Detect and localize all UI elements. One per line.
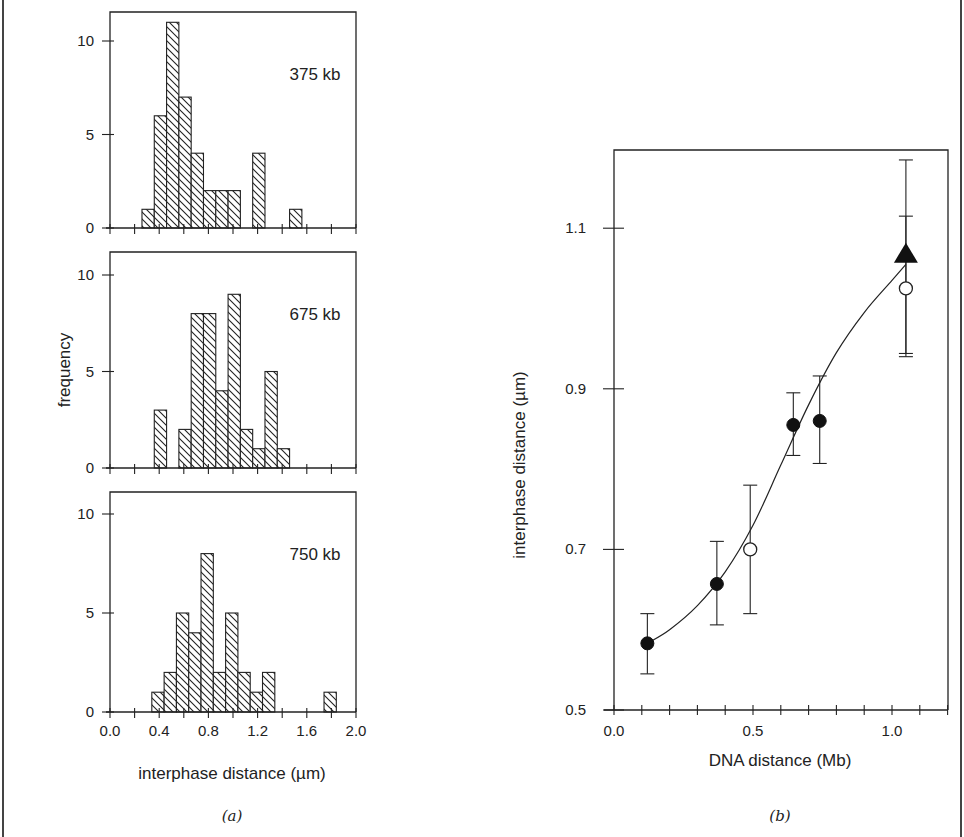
scatter-x-axis-label: DNA distance (Mb) [709,751,852,770]
histogram-bar [152,692,164,712]
histogram-bar [216,191,228,228]
histogram-bar [265,372,277,469]
histogram-bar [263,672,275,712]
histogram-bar [324,692,336,712]
histogram-bar [201,554,213,712]
histogram-bar [164,672,176,712]
histogram-bar [238,672,250,712]
histogram-bar [203,314,215,468]
x-tick-label: 1.0 [882,722,903,739]
x-tick-label: 2.0 [346,722,367,739]
outer-frame-left [2,0,4,837]
histogram-bar [216,391,228,468]
histogram-bar [191,314,203,468]
histogram-bar [179,429,191,468]
histogram-bar [167,22,179,228]
x-tick-label: 1.6 [296,722,317,739]
histogram-bar [240,429,252,468]
panel-a-caption: (a) [222,807,243,825]
histogram-bar [176,613,188,712]
histogram-y-axis-label: frequency [55,332,74,407]
histogram-bar [189,633,201,712]
histogram-title: 375 kb [289,65,340,84]
histogram-bar [213,672,225,712]
data-point-filled-triangle [894,243,918,263]
y-tick-label: 10 [77,505,94,522]
histogram-bar [228,191,240,228]
histogram-675kb: 0510675 kb [77,252,356,476]
y-tick-label: 0.5 [565,701,586,718]
x-tick-label: 0.4 [149,722,170,739]
y-tick-label: 0 [86,219,94,236]
data-point-filled-circle [710,577,723,590]
histogram-bar [253,153,265,228]
histogram-bar [277,449,289,468]
histogram-bar [253,449,265,468]
panel-b-caption: (b) [769,807,790,825]
scatter-plot-b: 0.00.51.00.50.70.91.1 [565,150,948,739]
y-tick-label: 5 [86,363,94,380]
y-tick-label: 10 [77,266,94,283]
data-point-open-circle [744,543,757,556]
data-point-filled-circle [787,418,800,431]
figure: 0510375 kb 0510675 kb 0.00.40.81.21.62.0… [0,0,964,837]
histogram-x-axis-label: interphase distance (µm) [138,764,325,783]
histogram-bar [154,410,166,468]
x-tick-label: 0.0 [604,722,625,739]
histogram-bar [228,294,240,468]
y-tick-label: 5 [86,604,94,621]
y-tick-label: 5 [86,126,94,143]
histogram-375kb: 0510375 kb [77,12,356,236]
x-tick-label: 0.5 [743,722,764,739]
histogram-title: 675 kb [289,305,340,324]
histogram-bar [226,613,238,712]
x-tick-label: 1.2 [247,722,268,739]
fit-curve [647,264,906,643]
y-tick-label: 10 [77,32,94,49]
y-tick-label: 1.1 [565,219,586,236]
data-point-filled-circle [641,637,654,650]
y-tick-label: 0 [86,459,94,476]
histogram-bar [154,116,166,228]
histogram-bar [250,692,262,712]
data-point-open-circle [899,282,912,295]
x-tick-label: 0.0 [100,722,121,739]
chart-canvas: 0510375 kb 0510675 kb 0.00.40.81.21.62.0… [0,0,964,837]
scatter-y-axis-label: interphase distance (µm) [510,371,529,558]
histogram-bar [203,191,215,228]
data-point-filled-circle [813,414,826,427]
histogram-750kb: 0.00.40.81.21.62.00510750 kb [77,492,366,739]
y-tick-label: 0.7 [565,540,586,557]
histogram-bar [191,153,203,228]
histogram-bar [290,209,302,228]
scatter-frame [614,150,948,710]
y-tick-label: 0 [86,703,94,720]
y-tick-label: 0.9 [565,380,586,397]
histogram-bar [179,97,191,228]
outer-frame-right [960,0,962,837]
histogram-title: 750 kb [289,545,340,564]
x-tick-label: 0.8 [198,722,219,739]
histogram-bar [142,209,154,228]
